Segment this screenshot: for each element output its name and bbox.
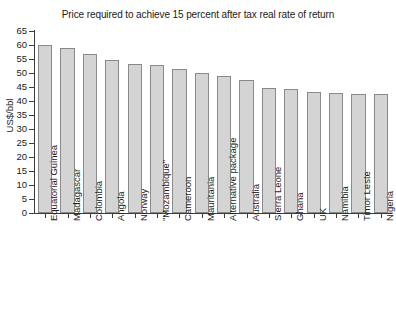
y-axis-tick-label: 10 [0, 180, 27, 190]
y-axis-tick [29, 171, 34, 172]
x-axis-category-label: Alternative package [228, 138, 238, 221]
y-axis-tick-label: 60 [0, 40, 27, 50]
y-axis-tick [29, 31, 34, 32]
y-axis-tick [29, 101, 34, 102]
x-axis-tick [179, 214, 180, 218]
x-axis-tick [247, 214, 248, 218]
x-axis-category-label: Timor Leste [362, 171, 372, 221]
y-axis-tick [29, 157, 34, 158]
y-axis-tick-label: 25 [0, 138, 27, 148]
x-axis-tick [381, 214, 382, 218]
y-axis-tick-label: 15 [0, 166, 27, 176]
x-axis-tick [202, 214, 203, 218]
x-axis-category-label: Australia [251, 184, 261, 221]
x-axis-category-label: Norway [139, 189, 149, 221]
x-axis-category-label: Nigeria [385, 191, 395, 221]
chart-title: Price required to achieve 15 percent aft… [0, 9, 396, 20]
y-axis-tick-label: 65 [0, 26, 27, 36]
x-axis-category-label: Colombia [94, 181, 104, 221]
x-axis-tick [112, 214, 113, 218]
x-axis-category-label: Sierra Leone [273, 167, 283, 221]
x-axis-category-label: Angola [116, 191, 126, 221]
x-axis-tick [68, 214, 69, 218]
y-axis-tick-label: 45 [0, 82, 27, 92]
y-axis-tick-label: 30 [0, 124, 27, 134]
x-axis-category-label: Cameroon [183, 177, 193, 221]
chart-page: Price required to achieve 15 percent aft… [0, 0, 396, 323]
y-axis-tick [29, 115, 34, 116]
y-axis-tick-label: 55 [0, 54, 27, 64]
y-axis-tick-label: 35 [0, 110, 27, 120]
y-axis-tick-label: 0 [0, 208, 27, 218]
y-axis-tick [29, 185, 34, 186]
x-axis-tick [269, 214, 270, 218]
x-axis-tick [224, 214, 225, 218]
x-axis-category-label: Mauritania [206, 177, 216, 221]
y-axis-tick-label: 50 [0, 68, 27, 78]
x-axis-tick [336, 214, 337, 218]
x-axis-tick [291, 214, 292, 218]
y-axis-tick [29, 213, 34, 214]
x-axis-category-label: "Mozambique" [161, 160, 171, 221]
y-axis-tick [29, 143, 34, 144]
y-axis-tick [29, 45, 34, 46]
x-axis-tick [90, 214, 91, 218]
x-axis-tick [45, 214, 46, 218]
y-axis-tick [29, 129, 34, 130]
bar [307, 92, 321, 213]
x-axis-category-label: Equatorial Guinea [49, 145, 59, 221]
x-axis-category-label: Madagascar [72, 169, 82, 221]
y-axis-tick-label: 20 [0, 152, 27, 162]
y-axis-tick [29, 73, 34, 74]
x-axis-tick [358, 214, 359, 218]
x-axis-category-label: Ghana [295, 192, 305, 221]
y-axis-line [34, 30, 35, 214]
y-axis-tick-label: 40 [0, 96, 27, 106]
x-axis-tick [157, 214, 158, 218]
y-axis-tick [29, 199, 34, 200]
y-axis-tick [29, 59, 34, 60]
x-axis-category-label: UK [318, 208, 328, 221]
y-axis-tick-label: 5 [0, 194, 27, 204]
x-axis-category-label: Namibia [340, 186, 350, 221]
y-axis-tick [29, 87, 34, 88]
x-axis-tick [135, 214, 136, 218]
x-axis-tick [314, 214, 315, 218]
